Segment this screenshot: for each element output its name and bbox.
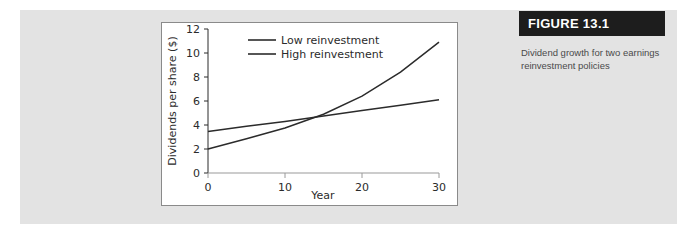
x-tick-label: 10 <box>278 181 292 194</box>
legend-label-high-reinvestment: High reinvestment <box>281 48 384 61</box>
x-axis-title: Year <box>310 189 335 202</box>
series-line-low-reinvestment <box>208 100 439 132</box>
y-axis-ticks <box>204 29 208 173</box>
chart-panel: 024681012 0102030 Year Dividends per sha… <box>161 22 458 206</box>
y-tick-label: 10 <box>186 47 200 60</box>
y-tick-label: 0 <box>193 167 200 180</box>
figure-number-label: FIGURE 13.1 <box>528 16 609 31</box>
figure-header-bar: FIGURE 13.1 <box>519 11 665 36</box>
y-tick-label: 6 <box>193 95 200 108</box>
y-axis-title: Dividends per share ($) <box>166 36 179 165</box>
chart-legend: Low reinvestment High reinvestment <box>248 34 384 61</box>
y-tick-label: 4 <box>193 119 200 132</box>
y-tick-label: 8 <box>193 71 200 84</box>
x-tick-label: 20 <box>355 181 369 194</box>
dividend-growth-line-chart: 024681012 0102030 Year Dividends per sha… <box>162 23 457 205</box>
y-tick-label: 2 <box>193 143 200 156</box>
x-tick-label: 0 <box>205 181 212 194</box>
y-tick-label: 12 <box>186 23 200 36</box>
figure-callout: FIGURE 13.1 Dividend growth for two earn… <box>519 11 665 72</box>
y-axis-tick-labels: 024681012 <box>186 23 200 180</box>
legend-label-low-reinvestment: Low reinvestment <box>281 34 380 47</box>
x-axis-ticks <box>208 173 439 178</box>
x-tick-label: 30 <box>432 181 446 194</box>
figure-caption-text: Dividend growth for two earnings reinves… <box>519 46 663 72</box>
